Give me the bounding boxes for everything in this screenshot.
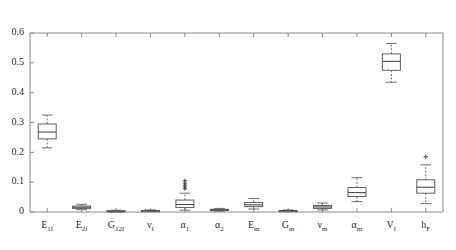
x-label-subscript: 1 [186, 225, 190, 233]
x-tick-label: Gm [282, 219, 295, 233]
x-label-subscript: 2 [220, 225, 224, 233]
box-series [38, 43, 435, 212]
x-label-subscript: m [254, 225, 260, 233]
y-tick-label: 0.6 [12, 26, 25, 37]
y-tick-label: 0 [19, 205, 24, 216]
box-plot-item [314, 203, 332, 210]
x-label-subscript: m [357, 225, 363, 233]
x-tick-label: αm [352, 219, 363, 233]
y-tick-label: 0.5 [12, 56, 25, 67]
x-label-subscript: 1f [47, 225, 54, 233]
x-label-base: G [108, 219, 115, 230]
y-tick-label: 0.2 [12, 146, 25, 157]
y-axis-ticks: 00.10.20.30.40.50.6 [12, 26, 35, 216]
box-plot-item [38, 115, 56, 148]
box-plot-item [417, 155, 435, 204]
y-tick-label: 0.4 [12, 86, 25, 97]
x-label-subscript: f [394, 225, 397, 233]
x-label-subscript: f [152, 225, 155, 233]
x-label-subscript: 12f [115, 225, 125, 233]
box-iqr [348, 188, 366, 197]
box-plot-item [279, 210, 297, 212]
x-axis-ticks [47, 33, 426, 212]
x-tick-label: α1 [181, 219, 190, 233]
x-tick-label: hF [421, 219, 430, 233]
x-tick-label: α2 [215, 219, 224, 233]
box-iqr [176, 200, 194, 207]
y-tick-label: 0.3 [12, 116, 25, 127]
box-plot-item [348, 178, 366, 202]
x-label-subscript: m [289, 225, 295, 233]
box-plot-item [141, 210, 159, 212]
x-label-subscript: m [322, 225, 328, 233]
box-plot-item [73, 204, 91, 209]
box-plot-item [245, 199, 263, 209]
box-iqr [38, 124, 56, 139]
x-tick-label: E2f [76, 219, 89, 233]
x-label-base: G [282, 219, 289, 230]
x-tick-label: νm [318, 219, 329, 233]
axes [30, 33, 443, 212]
box-iqr [382, 54, 400, 70]
x-axis-labels: E1fE2fG12fνfα1α2EmGmνmαmVfhF [41, 219, 430, 233]
y-tick-label: 0.1 [12, 175, 25, 186]
box-plot-item [210, 208, 228, 211]
x-tick-label: νf [147, 219, 155, 233]
x-tick-label: Vf [387, 219, 397, 233]
x-tick-label: G12f [108, 219, 125, 233]
x-tick-label: Em [248, 219, 260, 233]
x-label-subscript: 2f [82, 225, 89, 233]
x-label-subscript: F [426, 225, 430, 233]
boxplot-svg: 00.10.20.30.40.50.6 E1fE2fG12fνfα1α2EmGm… [0, 0, 456, 250]
boxplot-chart: 00.10.20.30.40.50.6 E1fE2fG12fνfα1α2EmGm… [0, 0, 456, 250]
box-plot-item [382, 43, 400, 82]
box-plot-item [176, 178, 194, 210]
box-plot-item [107, 210, 125, 212]
x-tick-label: E1f [41, 219, 54, 233]
box-iqr [417, 180, 435, 193]
